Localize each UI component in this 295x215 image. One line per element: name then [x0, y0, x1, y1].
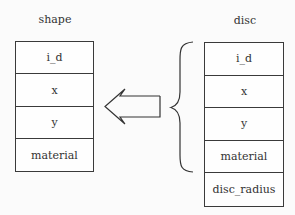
inheritance-arrow-icon [105, 89, 160, 124]
curly-brace-icon [171, 42, 193, 172]
connector-layer [0, 0, 295, 215]
